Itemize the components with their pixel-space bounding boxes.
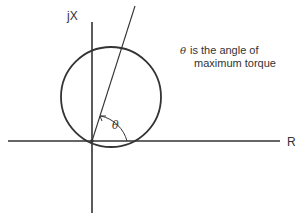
diagram-canvas [0,0,302,221]
origin-point [90,139,94,143]
jx-axis-label: jX [67,9,78,23]
annotation-note: θis the angle of maximum torque [180,44,276,70]
locus-circle [61,47,161,147]
note-line-2: maximum torque [180,57,276,70]
theta-symbol: θ [180,45,186,56]
theta-label: θ [112,119,119,132]
r-axis-label: R [287,135,296,149]
note-line-1: is the angle of [190,44,259,56]
